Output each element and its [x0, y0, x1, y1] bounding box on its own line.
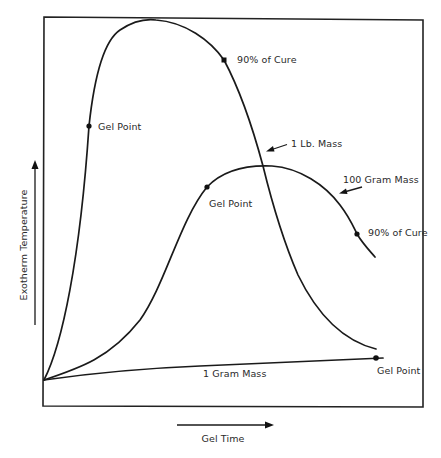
gel-point-marker-100g	[204, 184, 209, 189]
gel-point-marker-1g	[373, 355, 379, 361]
y-axis-label: Exotherm Temperature	[18, 189, 29, 300]
cure90-label-100g: 90% of Cure	[368, 227, 428, 238]
gel-point-marker-1lb	[86, 123, 91, 128]
label-100g-mass: 100 Gram Mass	[343, 174, 419, 185]
y-axis-arrow	[32, 160, 39, 325]
cure90-marker-1lb	[222, 58, 227, 63]
gel-point-label-1lb: Gel Point	[98, 121, 142, 132]
x-axis-arrow	[177, 422, 274, 429]
label-1lb-mass: 1 Lb. Mass	[291, 138, 342, 149]
gel-point-label-1g: Gel Point	[377, 365, 421, 376]
x-axis-label: Gel Time	[202, 433, 245, 444]
cure90-marker-100g	[354, 231, 359, 236]
exotherm-chart: Exotherm Temperature Gel Time Gel Point …	[0, 0, 441, 458]
plot-frame	[43, 17, 423, 407]
gel-point-label-100g: Gel Point	[209, 198, 253, 209]
label-1g-mass: 1 Gram Mass	[203, 368, 266, 379]
cure90-label-1lb: 90% of Cure	[237, 54, 297, 65]
callout-arrow-100g	[339, 187, 362, 194]
callout-arrow-1lb	[266, 145, 287, 152]
